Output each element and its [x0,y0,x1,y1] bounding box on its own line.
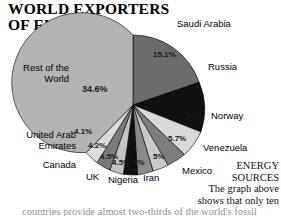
pct-saudi-arabia: 15.1% [153,50,176,59]
label-norway: Norway [211,111,243,122]
energy-sources-line1: ENERGY [173,160,279,172]
pct-mexico: 5% [153,152,165,161]
label-rest-of-world: Rest of the World [0,63,69,84]
energy-sources-line2: SOURCES [173,172,279,184]
label-canada: Canada [2,160,76,171]
pct-uae: 4.1% [74,127,92,136]
caption-line-1: The graph above [0,183,279,195]
label-venezuela: Venezuela [203,143,247,154]
pct-venezuela: 5.7% [168,134,186,143]
label-russia: Russia [208,62,237,73]
pct-uk: 4.5% [100,152,118,161]
label-iran: Iran [143,173,159,184]
energy-sources-heading: ENERGY SOURCES [173,160,279,183]
label-uae: United Arab Emirates [0,130,76,151]
pct-canada: 4.2% [88,141,106,150]
caption-line-2: shows that only ten [0,195,279,207]
pct-iran: 5% [133,158,145,167]
pct-norway: 7.3% [178,112,196,121]
label-saudi-arabia: Saudi Arabia [177,19,231,30]
pct-rest-of-world: 34.6% [82,85,108,94]
label-uk: UK [86,172,99,183]
caption-line-3: countries provide almost two-thirds of t… [0,206,279,216]
chart-page: WORLD EXPORTERS OF ENERGY 15.1% 7.3% 5.7… [0,0,281,216]
caption-text: The graph above shows that only ten coun… [0,183,279,216]
